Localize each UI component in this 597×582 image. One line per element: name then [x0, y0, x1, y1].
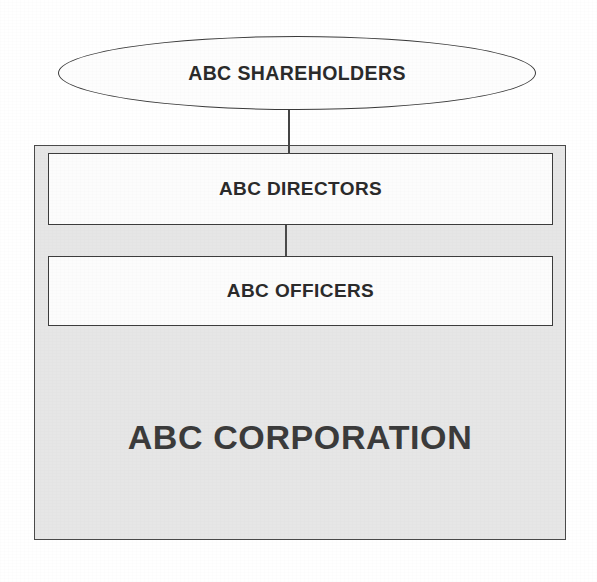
node-corporation[interactable]: ABC DIRECTORS ABC OFFICERS ABC CORPORATI…	[34, 145, 566, 540]
node-officers-label: ABC OFFICERS	[227, 280, 374, 302]
node-shareholders-label: ABC SHAREHOLDERS	[188, 62, 406, 85]
connector-shareholders-to-directors	[288, 106, 290, 154]
connector-directors-to-officers	[285, 225, 287, 256]
node-officers[interactable]: ABC OFFICERS	[48, 256, 553, 326]
node-directors-label: ABC DIRECTORS	[219, 178, 382, 200]
node-corporation-label: ABC CORPORATION	[35, 418, 565, 457]
org-chart-diagram: ABC SHAREHOLDERS ABC DIRECTORS ABC OFFIC…	[0, 0, 597, 582]
node-shareholders[interactable]: ABC SHAREHOLDERS	[58, 36, 536, 110]
node-directors[interactable]: ABC DIRECTORS	[48, 153, 553, 225]
